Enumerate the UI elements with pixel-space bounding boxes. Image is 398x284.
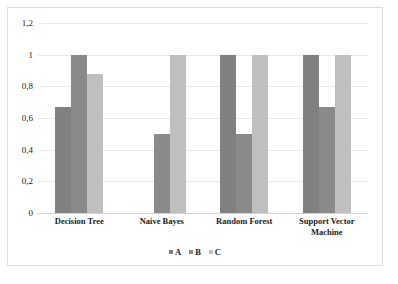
- bar-group: [38, 23, 121, 213]
- x-axis-baseline: [38, 213, 368, 214]
- bar-random-forest-b: [236, 134, 252, 213]
- y-axis-tick-label: 0,8: [22, 82, 33, 91]
- y-axis-tick-label: 0,4: [22, 145, 33, 154]
- bar-group: [203, 23, 286, 213]
- bar-support-vector-machine-b: [319, 107, 335, 213]
- plot-area: 00,20,40,60,811,2: [38, 23, 368, 213]
- bar-random-forest-c: [252, 55, 268, 213]
- y-axis-tick-label: 0,2: [22, 177, 33, 186]
- bar-random-forest-a: [220, 55, 236, 213]
- bar-chart-figure: 00,20,40,60,811,2 Decision TreeNaive Bay…: [7, 7, 383, 266]
- x-axis-label-naive-bayes: Naive Bayes: [121, 216, 204, 227]
- x-axis-label-support-vector-machine: Support Vector Machine: [286, 216, 369, 238]
- legend-swatch-icon-b: [189, 250, 193, 254]
- legend-swatch-icon-a: [169, 250, 173, 254]
- bar-group: [286, 23, 369, 213]
- bar-decision-tree-b: [71, 55, 87, 213]
- y-axis-tick-label: 1: [29, 50, 34, 59]
- bar-decision-tree-a: [55, 107, 71, 213]
- legend-item-b: B: [189, 246, 201, 257]
- chart-legend: ABC: [8, 246, 382, 257]
- bar-support-vector-machine-a: [303, 55, 319, 213]
- legend-swatch-icon-c: [209, 250, 213, 254]
- y-axis-tick-label: 0: [29, 209, 34, 218]
- legend-label-b: B: [195, 247, 201, 257]
- legend-label-c: C: [215, 247, 221, 257]
- x-axis-category-labels: Decision TreeNaive BayesRandom ForestSup…: [38, 216, 368, 246]
- y-axis-tick-label: 0,6: [22, 114, 33, 123]
- bars-layer: [38, 23, 368, 213]
- x-axis-label-decision-tree: Decision Tree: [38, 216, 121, 227]
- bar-naive-bayes-b: [154, 134, 170, 213]
- y-axis-tick-label: 1,2: [22, 19, 33, 28]
- legend-label-a: A: [175, 247, 181, 257]
- x-axis-label-random-forest: Random Forest: [203, 216, 286, 227]
- bar-decision-tree-c: [87, 74, 103, 213]
- legend-item-c: C: [209, 246, 221, 257]
- bar-naive-bayes-c: [170, 55, 186, 213]
- bar-group: [121, 23, 204, 213]
- legend-item-a: A: [169, 246, 181, 257]
- bar-support-vector-machine-c: [335, 55, 351, 213]
